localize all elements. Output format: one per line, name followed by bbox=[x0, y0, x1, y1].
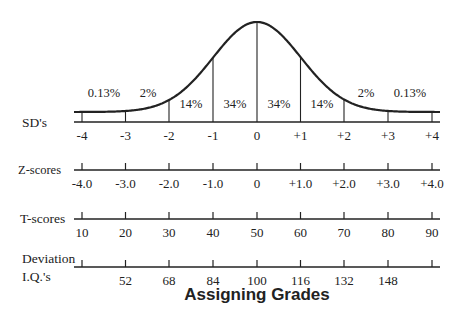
scale-tick-label: -1 bbox=[208, 128, 219, 143]
scale-label: T-scores bbox=[20, 211, 65, 226]
scale-tick-label: 0 bbox=[254, 128, 261, 143]
scale-label: I.Q.'s bbox=[22, 269, 51, 284]
scale-tick-label: +1 bbox=[294, 128, 308, 143]
scale-tick-label: +4 bbox=[425, 128, 439, 143]
scale-tick-label: -2.0 bbox=[159, 176, 180, 191]
scale-tick-label: 20 bbox=[119, 225, 132, 240]
scale-tick-label: +2.0 bbox=[332, 176, 356, 191]
scale-tick-label: +4.0 bbox=[420, 176, 444, 191]
scale-tick-label: -1.0 bbox=[203, 176, 224, 191]
band-percent-label: 14% bbox=[180, 97, 203, 111]
score-scales: SD's-4-3-2-10+1+2+3+4Z-scores-4.0-3.0-2.… bbox=[18, 115, 444, 288]
scale-label: Z-scores bbox=[18, 163, 61, 177]
scale-tick-label: +2 bbox=[337, 128, 351, 143]
band-percent-label: 14% bbox=[311, 97, 334, 111]
scale-tick-label: 148 bbox=[378, 273, 398, 288]
scale-tick-label: 52 bbox=[119, 273, 132, 288]
normal-curve-diagram: 0.13%2%14%34%34%14%2%0.13% SD's-4-3-2-10… bbox=[0, 0, 461, 321]
scale-tick-label: +3 bbox=[381, 128, 395, 143]
scale-tick-label: 60 bbox=[294, 225, 307, 240]
scale-tick-label: -2 bbox=[164, 128, 175, 143]
scale-tick-label: -3.0 bbox=[115, 176, 136, 191]
band-percent-label: 34% bbox=[224, 97, 247, 111]
band-percent-label: 34% bbox=[268, 97, 291, 111]
scale-tick-label: 70 bbox=[338, 225, 351, 240]
band-percent-label: 2% bbox=[140, 86, 157, 100]
scale-sd-s: SD's-4-3-2-10+1+2+3+4 bbox=[22, 115, 439, 143]
scale-tick-label: 80 bbox=[382, 225, 395, 240]
scale-tick-label: 0 bbox=[254, 176, 261, 191]
scale-tick-label: 30 bbox=[163, 225, 176, 240]
scale-tick-label: 10 bbox=[76, 225, 89, 240]
scale-tick-label: 132 bbox=[334, 273, 354, 288]
scale-label: SD's bbox=[22, 115, 47, 130]
scale-tick-label: +3.0 bbox=[376, 176, 400, 191]
diagram-title: Assigning Grades bbox=[184, 285, 329, 304]
band-percent-label: 0.13% bbox=[88, 86, 120, 100]
scale-tick-label: 68 bbox=[163, 273, 176, 288]
band-percent-label: 0.13% bbox=[394, 86, 426, 100]
scale-tick-label: 50 bbox=[251, 225, 264, 240]
scale-deviation-i-q-s: DeviationI.Q.'s526884100116132148 bbox=[22, 251, 440, 288]
band-percent-label: 2% bbox=[358, 86, 375, 100]
scale-tick-label: -4 bbox=[77, 128, 88, 143]
scale-t-scores: T-scores102030405060708090 bbox=[20, 211, 440, 240]
scale-label: Deviation bbox=[22, 251, 75, 266]
scale-z-scores: Z-scores-4.0-3.0-2.0-1.00+1.0+2.0+3.0+4.… bbox=[18, 163, 444, 191]
scale-tick-label: -4.0 bbox=[72, 176, 93, 191]
scale-tick-label: 90 bbox=[426, 225, 439, 240]
normal-curve bbox=[74, 22, 440, 122]
scale-tick-label: +1.0 bbox=[289, 176, 313, 191]
scale-tick-label: 40 bbox=[207, 225, 220, 240]
scale-tick-label: -3 bbox=[120, 128, 131, 143]
